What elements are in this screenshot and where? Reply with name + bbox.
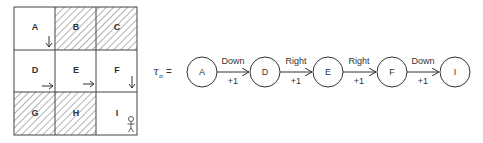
cell-label-e: E: [73, 65, 79, 75]
grid-world: A B C D E F G H I: [14, 7, 137, 135]
arrow-right-icon: [83, 81, 94, 87]
trajectory-chain: A D E F I Down +1 Right +1: [187, 56, 470, 87]
cell-label-g: G: [31, 108, 38, 118]
cell-label-h: H: [73, 108, 80, 118]
state-node-e: E: [313, 57, 343, 87]
action-label: Down: [221, 56, 244, 66]
reward-label: +1: [418, 76, 428, 86]
arrow-down-icon: [129, 76, 135, 88]
node-label: D: [262, 67, 269, 77]
action-label: Right: [285, 56, 307, 66]
cell-label-c: C: [114, 22, 121, 32]
reward-label: +1: [228, 76, 238, 86]
transition-edge: Down +1: [217, 56, 249, 86]
cell-label-d: D: [32, 65, 39, 75]
state-node-f: F: [377, 57, 407, 87]
node-label: A: [199, 67, 205, 77]
trajectory-label: τ π =: [153, 65, 172, 79]
tau-subscript: π: [158, 72, 164, 79]
cell-label-i: I: [116, 108, 119, 118]
arrow-down-icon: [46, 36, 52, 47]
action-label: Down: [411, 56, 434, 66]
diagram-canvas: A B C D E F G H I: [0, 0, 483, 143]
cell-label-b: B: [73, 22, 80, 32]
transition-edge: Right +1: [343, 56, 376, 86]
node-label: I: [454, 67, 457, 77]
transition-edge: Right +1: [280, 56, 312, 86]
node-label: E: [325, 67, 331, 77]
arrow-right-icon: [42, 83, 53, 89]
transition-edge: Down +1: [407, 56, 439, 86]
state-node-a: A: [187, 57, 217, 87]
state-node-d: D: [250, 57, 280, 87]
action-label: Right: [348, 56, 370, 66]
equals-sign: =: [166, 66, 172, 77]
node-label: F: [389, 67, 395, 77]
reward-label: +1: [291, 76, 301, 86]
cell-label-a: A: [32, 22, 39, 32]
state-node-i: I: [440, 57, 470, 87]
person-icon: [128, 117, 135, 133]
cell-label-f: F: [114, 65, 120, 75]
reward-label: +1: [354, 76, 364, 86]
